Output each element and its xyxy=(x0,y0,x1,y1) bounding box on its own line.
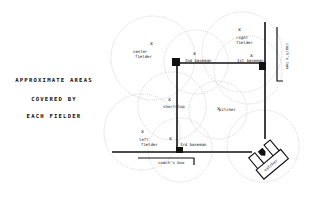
first-baseman-area xyxy=(214,36,282,104)
svg-text:shortstop: shortstop xyxy=(163,104,185,109)
coachs-box-bottom-label: coach's box xyxy=(158,160,185,165)
home-plate xyxy=(258,148,268,158)
coverage-areas xyxy=(104,12,299,182)
svg-text:fielder: fielder xyxy=(135,54,152,59)
fielder-mark: x xyxy=(150,40,153,46)
svg-text:2nd baseman: 2nd baseman xyxy=(185,58,212,63)
fielding-diagram: coach's box coach's box x center fielder… xyxy=(0,0,314,199)
home-plate-area xyxy=(247,139,288,179)
svg-text:pitcher: pitcher xyxy=(219,107,236,112)
pitcher: x pitcher xyxy=(217,105,236,112)
fielder-mark: x xyxy=(168,96,171,102)
third-base xyxy=(176,147,183,153)
first-base xyxy=(259,62,266,70)
right-fielder-area xyxy=(202,12,282,92)
third-baseman: x 3rd baseman xyxy=(169,135,207,147)
first-baseman: x 1st baseman xyxy=(237,52,264,63)
fielder-mark: x xyxy=(141,128,144,134)
second-base xyxy=(172,58,180,66)
coachs-box-right-label: coach's box xyxy=(285,43,290,70)
svg-text:fielder: fielder xyxy=(141,142,158,147)
fielder-mark: x xyxy=(193,50,196,56)
fielder-mark: x xyxy=(238,26,241,32)
fielder-mark: x xyxy=(169,135,172,141)
svg-text:1st baseman: 1st baseman xyxy=(237,58,264,63)
center-fielder: x center fielder xyxy=(133,40,153,59)
second-baseman: x 2nd baseman xyxy=(185,50,212,63)
center-fielder-area xyxy=(111,16,195,100)
right-fielder: x right fielder xyxy=(236,26,253,45)
svg-text:3rd baseman: 3rd baseman xyxy=(180,142,207,147)
svg-text:fielder: fielder xyxy=(236,40,253,45)
left-fielder: x left fielder xyxy=(139,128,158,147)
